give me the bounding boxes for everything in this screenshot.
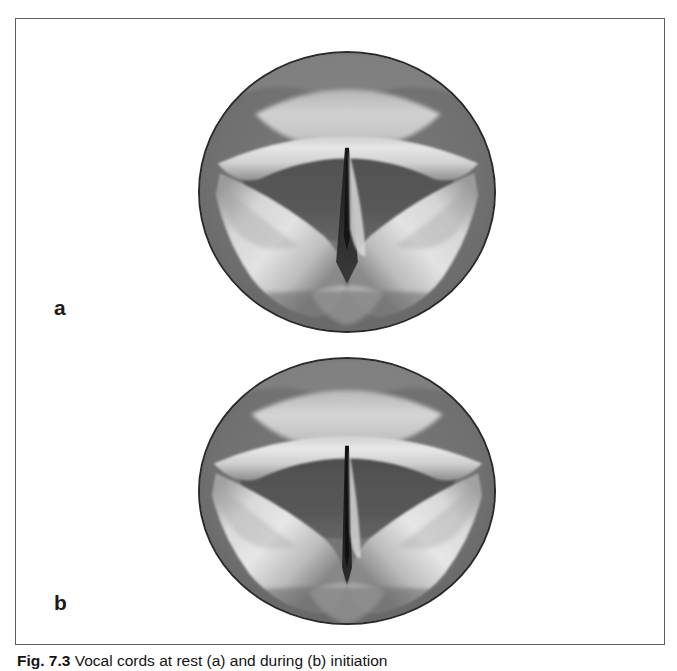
panel-label-b: b [54, 592, 67, 613]
figure-frame: a b [15, 18, 665, 645]
larynx-illustration-b [200, 359, 494, 623]
figure-caption: Fig. 7.3 Vocal cords at rest (a) and dur… [17, 651, 665, 671]
panel-label-a: a [54, 297, 66, 318]
laryngoscopy-view-panel-b [198, 357, 496, 625]
larynx-illustration-a [200, 53, 494, 331]
figure-caption-number: Fig. 7.3 [17, 652, 75, 669]
laryngoscopy-view-panel-a [198, 51, 496, 333]
figure-caption-text: Vocal cords at rest (a) and during (b) i… [75, 652, 388, 669]
